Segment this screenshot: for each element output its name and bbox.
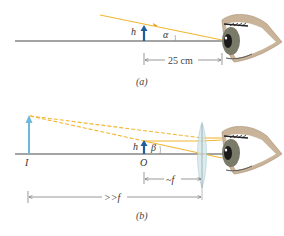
panel-a: h α 25 cm (a) [15, 14, 282, 88]
angle-beta-label: β [150, 142, 156, 153]
near-focal-label: ~f [166, 174, 175, 185]
caption-a: (a) [136, 76, 148, 88]
angle-alpha-label: α [163, 29, 169, 40]
height-label-b: h [133, 141, 138, 152]
object-arrow-b [141, 140, 148, 154]
object-point-label: O [140, 157, 147, 168]
virtual-ray-1 [30, 116, 202, 138]
angle-arc-b [160, 146, 161, 154]
angle-arc-a [175, 35, 176, 41]
caption-b: (b) [136, 210, 148, 222]
object-arrow-a [141, 25, 148, 41]
eye-icon-b [222, 126, 282, 174]
virtual-image-arrow [26, 115, 33, 154]
height-label-a: h [131, 26, 136, 37]
distance-label-a: 25 cm [168, 55, 193, 66]
panel-b: I h β O ~f >> [15, 115, 282, 222]
light-ray-a [100, 15, 222, 40]
eye-icon [222, 14, 282, 62]
far-focal-label: >>f [104, 192, 121, 203]
magnifier-diagram: h α 25 cm (a) I [0, 0, 284, 236]
image-label: I [24, 157, 29, 168]
